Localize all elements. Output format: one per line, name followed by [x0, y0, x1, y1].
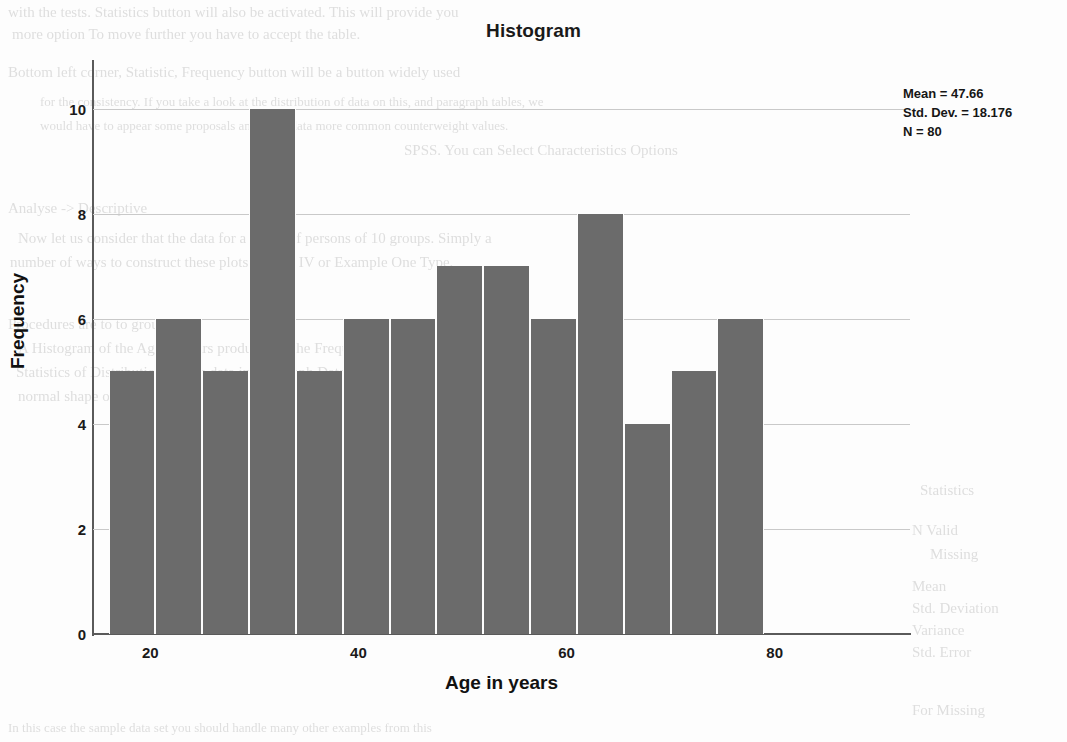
x-tick-label: 80 [745, 644, 805, 661]
chart-title: Histogram [0, 20, 1067, 42]
histogram-bar [390, 319, 437, 634]
y-tick-label: 6 [46, 310, 86, 327]
histogram-bar [202, 371, 249, 634]
histogram-bar [624, 424, 671, 634]
x-axis-label: Age in years [93, 672, 910, 694]
x-tick-label: 40 [328, 644, 388, 661]
x-tick-label: 60 [537, 644, 597, 661]
y-tick-label: 10 [46, 100, 86, 117]
y-tick-label: 0 [46, 626, 86, 643]
y-tick-label: 2 [46, 520, 86, 537]
histogram-bar [436, 266, 483, 634]
y-axis-ticks: 0246810 [38, 0, 86, 742]
histogram-bar [717, 319, 764, 634]
stat-std-dev: Std. Dev. = 18.176 [903, 103, 1012, 122]
y-tick-label: 4 [46, 415, 86, 432]
histogram-bar [530, 319, 577, 634]
gridline [93, 109, 910, 110]
histogram-bar [109, 371, 156, 634]
gridline [93, 214, 910, 215]
stat-mean: Mean = 47.66 [903, 84, 1012, 103]
y-tick-label: 8 [46, 205, 86, 222]
statistics-box: Mean = 47.66 Std. Dev. = 18.176 N = 80 [903, 84, 1012, 141]
histogram-bar [577, 214, 624, 634]
x-tick-label: 20 [120, 644, 180, 661]
histogram-bar [296, 371, 343, 634]
y-axis-label: Frequency [7, 121, 29, 521]
histogram-bar [671, 371, 718, 634]
histogram-page: with the tests. Statistics button will a… [0, 0, 1067, 742]
histogram-bar [155, 319, 202, 634]
histogram-chart: Histogram 0246810 20406080 Frequency Age… [0, 0, 1067, 742]
plot-area [93, 77, 910, 634]
histogram-bar [483, 266, 530, 634]
stat-n: N = 80 [903, 122, 1012, 141]
histogram-bar [249, 109, 296, 634]
histogram-bar [343, 319, 390, 634]
